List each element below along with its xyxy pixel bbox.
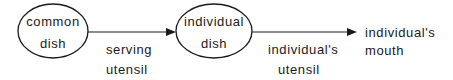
arrowhead-icon <box>166 28 176 36</box>
edge-individuals-utensil-label-1: individual's <box>268 42 338 58</box>
edge-serving-utensil-label-2: utensil <box>106 62 148 78</box>
edge-serving-utensil-label-1: serving <box>106 42 152 58</box>
node-common-dish-label-2: dish <box>18 36 88 52</box>
node-individuals-mouth-label-2: mouth <box>365 43 404 59</box>
node-individual-dish-label-2: dish <box>176 36 252 52</box>
edge-individuals-utensil-label-2: utensil <box>278 62 320 78</box>
node-individual-dish-label-1: individual <box>176 14 252 30</box>
node-individuals-mouth-label-1: individual's <box>365 25 435 41</box>
arrowhead-icon <box>347 28 357 36</box>
node-common-dish-label-1: common <box>18 14 88 30</box>
